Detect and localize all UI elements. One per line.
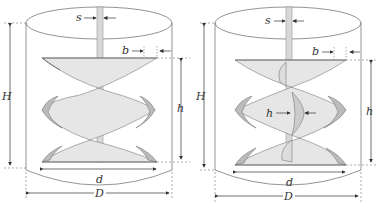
label-d: d xyxy=(96,173,103,186)
label-b: b xyxy=(312,45,319,58)
label-D: D xyxy=(94,187,104,200)
left-impeller: H h d D s b xyxy=(1,7,190,200)
label-D: D xyxy=(283,190,293,203)
label-b: b xyxy=(122,44,129,57)
helical-ribbon-impeller-diagram: H h d D s b xyxy=(0,0,377,207)
label-h: h xyxy=(366,105,373,118)
label-s: s xyxy=(265,14,271,27)
right-impeller: H h d D s b h xyxy=(195,7,377,203)
label-d: d xyxy=(286,176,293,189)
label-h-inner: h xyxy=(266,107,273,120)
label-H: H xyxy=(1,90,12,103)
helical-ribbons xyxy=(42,58,157,162)
label-s: s xyxy=(76,11,82,24)
label-h: h xyxy=(177,102,184,115)
label-H: H xyxy=(195,90,206,103)
